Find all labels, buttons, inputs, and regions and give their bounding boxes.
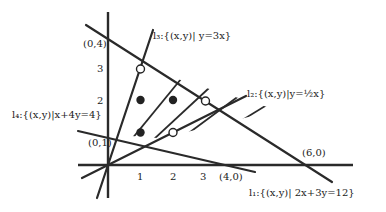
point-filled <box>136 96 144 104</box>
label-l1: l₁:{(x,y)| 2x+3y=12} <box>249 187 355 199</box>
y-tick-3: 3 <box>97 63 103 74</box>
point-filled <box>136 128 144 136</box>
y-tick-2: 2 <box>97 95 103 106</box>
x-tick-3: 3 <box>200 171 206 182</box>
point-filled <box>169 96 177 104</box>
label-0-4: (0,4) <box>83 38 107 49</box>
line-l3 <box>97 30 153 198</box>
label-l4: l₄:{(x,y)|x+4y=4} <box>12 109 102 121</box>
label-l2: l₂:{(x,y)|y=½x} <box>247 88 325 100</box>
x-tick-2: 2 <box>170 171 176 182</box>
label-6-0: (6,0) <box>302 147 326 158</box>
label-4-0: (4,0) <box>219 171 243 182</box>
diagram-figure: 3 2 1 2 3 (0,4) (0,1) (4,0) (6,0) l₃:{(x… <box>0 0 386 212</box>
label-0-1: (0,1) <box>88 137 112 148</box>
label-l3: l₃:{(x,y)| y=3x} <box>153 30 231 42</box>
point-open <box>137 65 145 73</box>
x-tick-1: 1 <box>137 171 143 182</box>
point-open <box>202 97 210 105</box>
point-open <box>169 129 177 137</box>
